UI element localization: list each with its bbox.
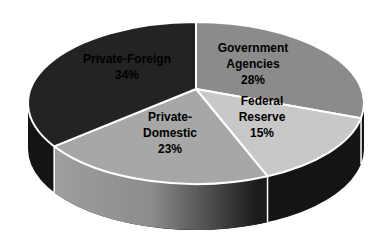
pie-3d-svg [0, 0, 387, 252]
pie-chart-figure: Government Agencies 28% Federal Reserve … [0, 0, 387, 252]
